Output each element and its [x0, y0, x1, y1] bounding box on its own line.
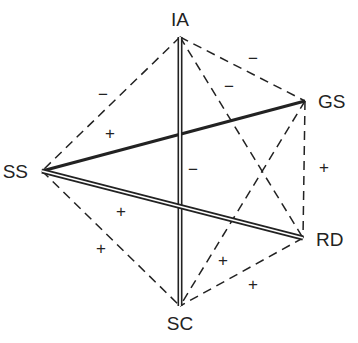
edge-gs-rd: [303, 101, 305, 238]
node-label-gs: GS: [318, 91, 345, 112]
minus-sign-ia-gs: −: [248, 49, 258, 68]
node-label-rd: RD: [316, 229, 343, 250]
edge-ss-rd: [42, 171, 303, 238]
edge-gs-sc: [180, 101, 305, 306]
plus-sign-ss-gs: +: [105, 124, 115, 143]
plus-sign-gs-sc: +: [218, 251, 228, 270]
plus-sign-ss-rd: +: [116, 202, 126, 221]
edge-ia-rd: [180, 37, 303, 238]
node-label-ss: SS: [3, 161, 28, 182]
plus-sign-rd-sc: +: [248, 275, 258, 294]
plus-sign-ss-sc: +: [96, 239, 106, 258]
edge-ss-gs: [42, 101, 305, 171]
minus-sign-ia-ss: −: [98, 85, 108, 104]
minus-sign-ia-rd: −: [224, 77, 234, 96]
signed-graph-diagram: IAGSRDSCSS−+−−−+++++: [0, 0, 358, 343]
node-label-sc: SC: [167, 313, 193, 334]
plus-sign-gs-rd: +: [319, 158, 329, 177]
minus-sign-ia-sc: −: [188, 160, 198, 179]
node-label-ia: IA: [171, 9, 189, 30]
edge-ia-ss: [42, 37, 180, 171]
edge-rd-sc: [180, 238, 303, 306]
